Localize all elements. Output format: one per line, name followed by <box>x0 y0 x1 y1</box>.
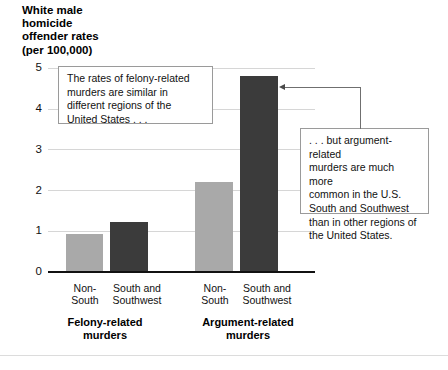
bar-argument-south-southwest <box>240 76 278 271</box>
y-tick-4: 4 <box>12 103 42 115</box>
y-tick-2: 2 <box>12 185 42 197</box>
x-axis-line <box>48 271 315 273</box>
annotation-argument-note: . . . but argument-related murders are m… <box>300 128 429 214</box>
arrow-head-icon <box>279 84 285 90</box>
group-label-argument: Argument-related murders <box>182 316 314 342</box>
bar-argument-non-south <box>195 182 233 271</box>
category-label-felony-south-southwest: South and Southwest <box>101 282 173 307</box>
bar-felony-non-south <box>66 234 103 271</box>
leader-line-vertical <box>360 87 361 129</box>
y-tick-5: 5 <box>12 62 42 74</box>
annotation-felony-note: The rates of felony-related murders are … <box>58 66 213 124</box>
y-tick-0: 0 <box>12 266 42 278</box>
group-label-felony: Felony-related murders <box>50 316 160 342</box>
footer-divider <box>0 355 448 356</box>
category-label-argument-south-southwest: South and Southwest <box>231 282 303 307</box>
leader-line-horizontal <box>285 87 361 88</box>
bar-felony-south-southwest <box>110 222 148 271</box>
chart-container: White male homicide offender rates (per … <box>0 0 448 370</box>
y-tick-3: 3 <box>12 144 42 156</box>
y-tick-1: 1 <box>12 225 42 237</box>
y-axis-title: White male homicide offender rates (per … <box>22 4 152 57</box>
